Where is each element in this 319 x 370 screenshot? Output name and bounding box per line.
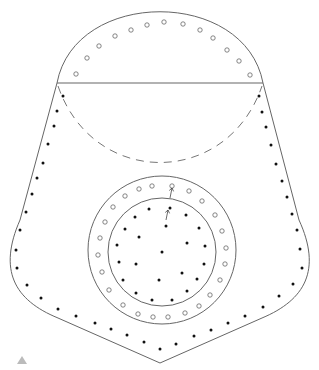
stitch-dot-marker bbox=[281, 180, 284, 183]
hollow-hole-marker bbox=[198, 28, 202, 32]
stitch-dot-marker bbox=[116, 244, 119, 247]
stitch-dot-marker bbox=[134, 216, 137, 219]
stitch-dot-marker bbox=[296, 229, 299, 232]
stitch-dot-marker bbox=[265, 126, 268, 129]
stitch-dot-marker bbox=[143, 341, 146, 344]
stitch-dot-marker bbox=[31, 193, 34, 196]
stitch-dot-marker bbox=[286, 196, 289, 199]
hollow-hole-marker bbox=[74, 72, 78, 76]
stitch-dot-marker bbox=[25, 211, 28, 214]
stitch-dot-marker bbox=[122, 279, 125, 282]
stitch-dot-marker bbox=[275, 163, 278, 166]
hollow-hole-marker bbox=[129, 28, 133, 32]
triangle-marker-icon bbox=[17, 356, 27, 364]
hollow-hole-marker bbox=[137, 187, 141, 191]
stitch-dot-marker bbox=[53, 125, 56, 128]
dashed-fold-line bbox=[58, 86, 262, 163]
stitch-dot-marker bbox=[42, 162, 45, 165]
stitch-dot-marker bbox=[138, 236, 141, 239]
stitch-dot-marker bbox=[36, 177, 39, 180]
hollow-hole-marker bbox=[97, 44, 101, 48]
stitch-dot-marker bbox=[15, 249, 18, 252]
hollow-hole-marker bbox=[187, 189, 191, 193]
hollow-hole-marker bbox=[225, 48, 229, 52]
hollow-hole-marker bbox=[121, 303, 125, 307]
stitch-dot-marker bbox=[124, 228, 127, 231]
hollow-hole-marker bbox=[145, 23, 149, 27]
stitch-dot-marker bbox=[19, 229, 22, 232]
hollow-hole-marker bbox=[237, 59, 241, 63]
stitch-dot-marker bbox=[94, 322, 97, 325]
stitch-dot-marker bbox=[196, 278, 199, 281]
stitch-dot-marker bbox=[204, 245, 207, 248]
stitch-dot-marker bbox=[270, 144, 273, 147]
hollow-hole-marker bbox=[96, 253, 100, 257]
hollow-hole-marker bbox=[151, 315, 155, 319]
stitch-dot-marker bbox=[26, 284, 29, 287]
stitch-dot-marker bbox=[185, 214, 188, 217]
hollow-hole-marker bbox=[223, 262, 227, 266]
diagram-canvas bbox=[0, 0, 319, 370]
stitch-dot-marker bbox=[126, 334, 129, 337]
hollow-hole-marker bbox=[200, 199, 204, 203]
stitch-dot-marker bbox=[186, 242, 189, 245]
hollow-hole-marker bbox=[197, 304, 201, 308]
hollow-hole-marker bbox=[111, 205, 115, 209]
hollow-hole-marker bbox=[162, 20, 166, 24]
stitch-dot-marker bbox=[151, 299, 154, 302]
hollow-hole-marker bbox=[98, 236, 102, 240]
hollow-hole-marker bbox=[103, 220, 107, 224]
stitch-dot-marker bbox=[159, 348, 162, 351]
pattern-diagram bbox=[0, 0, 319, 370]
stitch-dot-marker bbox=[258, 95, 261, 98]
stitch-dot-marker bbox=[198, 227, 201, 230]
hollow-hole-marker bbox=[113, 34, 117, 38]
hollow-hole-marker bbox=[150, 184, 154, 188]
stitch-dot-marker bbox=[47, 143, 50, 146]
stitch-dot-marker bbox=[193, 335, 196, 338]
hollow-hole-marker bbox=[218, 278, 222, 282]
stitch-dot-marker bbox=[16, 267, 19, 270]
shape-outline bbox=[10, 12, 309, 363]
hollow-hole-marker bbox=[136, 312, 140, 316]
stitch-dot-marker bbox=[118, 261, 121, 264]
hollow-hole-marker bbox=[166, 315, 170, 319]
stitch-dot-marker bbox=[165, 225, 168, 228]
stitch-dot-marker bbox=[181, 272, 184, 275]
stitch-dot-marker bbox=[210, 329, 213, 332]
stitch-dot-marker bbox=[261, 111, 264, 114]
hollow-hole-marker bbox=[224, 246, 228, 250]
hollow-hole-marker bbox=[183, 311, 187, 315]
stitch-dot-marker bbox=[244, 315, 247, 318]
stitch-dot-marker bbox=[135, 263, 138, 266]
stitch-dot-marker bbox=[171, 299, 174, 302]
stitch-dot-marker bbox=[56, 110, 59, 113]
hollow-hole-marker bbox=[181, 22, 185, 26]
stitch-dot-marker bbox=[110, 328, 113, 331]
stitch-dot-marker bbox=[40, 297, 43, 300]
diagram-shapes bbox=[10, 12, 309, 363]
stitch-dot-marker bbox=[278, 295, 281, 298]
hollow-hole-marker bbox=[100, 270, 104, 274]
stitch-dot-marker bbox=[227, 322, 230, 325]
stitch-dot-marker bbox=[262, 306, 265, 309]
stitch-dot-marker bbox=[292, 283, 295, 286]
hollow-hole-marker bbox=[220, 229, 224, 233]
hollow-hole-marker bbox=[213, 213, 217, 217]
stitch-dot-marker bbox=[175, 343, 178, 346]
stitch-dot-marker bbox=[299, 248, 302, 251]
hollow-hole-marker bbox=[248, 73, 252, 77]
stitch-dot-marker bbox=[62, 95, 65, 98]
hollow-hole-marker bbox=[208, 293, 212, 297]
hollow-hole-marker bbox=[107, 288, 111, 292]
stitch-dot-marker bbox=[291, 213, 294, 216]
stitch-dot-marker bbox=[158, 279, 161, 282]
hollow-hole-marker bbox=[85, 56, 89, 60]
stitch-dot-marker bbox=[169, 207, 172, 210]
stitch-dot-marker bbox=[161, 251, 164, 254]
stitch-dot-marker bbox=[135, 292, 138, 295]
stitch-dot-marker bbox=[301, 267, 304, 270]
hollow-hole-marker bbox=[211, 36, 215, 40]
stitch-dot-marker bbox=[57, 308, 60, 311]
stitch-dot-marker bbox=[148, 208, 151, 211]
